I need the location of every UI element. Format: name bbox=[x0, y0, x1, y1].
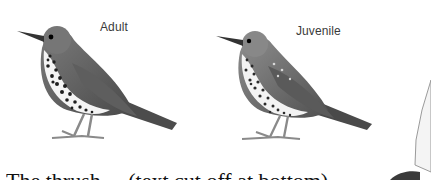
adult-bird-illustration bbox=[12, 18, 182, 143]
field-guide-page: Adult Juvenile The thr bbox=[0, 0, 431, 180]
body-text-cut-off: The thrush ... (text cut off at bottom) bbox=[6, 170, 366, 180]
figure-caption-juvenile: Juvenile bbox=[296, 24, 341, 38]
partial-illustration-edge bbox=[380, 80, 431, 180]
figure-caption-adult: Adult bbox=[100, 20, 128, 34]
juvenile-bird-illustration bbox=[212, 24, 377, 144]
